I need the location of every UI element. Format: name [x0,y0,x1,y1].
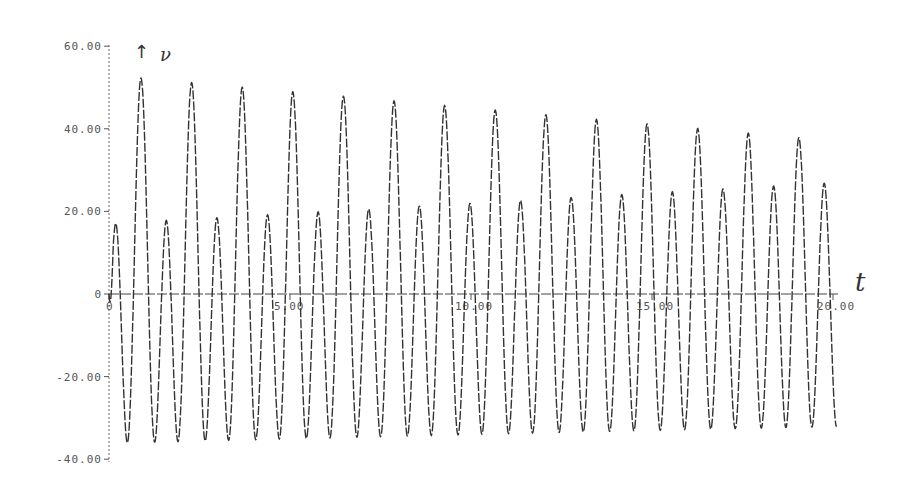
y-tick-group: 60.0040.0020.000-20.00-40.00 [56,40,109,466]
x-axis-label: t [855,267,866,297]
x-tick-group: 05.0010.0015.0020.00 [106,294,855,313]
x-tick-label: 20.00 [817,300,855,313]
y-tick-label: 20.00 [64,205,102,218]
y-tick-label: 40.00 [64,123,102,136]
y-tick-label: -40.00 [56,453,102,466]
y-tick-label: 0 [94,288,102,301]
y-axis-label: ν [160,44,171,65]
data-series-line [109,78,837,443]
y-tick-label: -20.00 [56,371,102,384]
y-tick-label: 60.00 [64,40,102,53]
y-axis-arrow-icon: ↑ [134,41,149,62]
line-chart: 60.0040.0020.000-20.00-40.00 05.0010.001… [0,0,917,492]
